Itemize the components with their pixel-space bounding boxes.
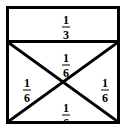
fraction-numerator: 1 [62,14,70,28]
fraction-diagram: 1 3 1 6 1 6 1 6 1 6 [0,0,127,131]
fraction-numerator: 1 [23,77,31,91]
region-lower-rectangle: 1 6 1 6 1 6 1 6 [9,43,117,121]
fraction-denominator: 6 [24,91,30,104]
fraction-denominator: 6 [102,91,108,104]
fraction-label-upper-triangle: 1 6 [62,52,70,79]
fraction-label-one-third: 1 3 [62,14,70,41]
fraction-label-lower-triangle: 1 6 [62,102,70,122]
fraction-label-right-triangle: 1 6 [101,77,109,104]
fraction-denominator: 3 [63,28,69,41]
fraction-numerator: 1 [62,102,70,116]
area-model-rectangle: 1 3 1 6 1 6 1 6 1 6 [6,6,120,124]
fraction-numerator: 1 [62,52,70,66]
region-top-band: 1 3 [9,9,117,43]
fraction-numerator: 1 [101,77,109,91]
fraction-denominator: 6 [63,116,69,122]
fraction-denominator: 6 [63,66,69,79]
fraction-label-left-triangle: 1 6 [23,77,31,104]
